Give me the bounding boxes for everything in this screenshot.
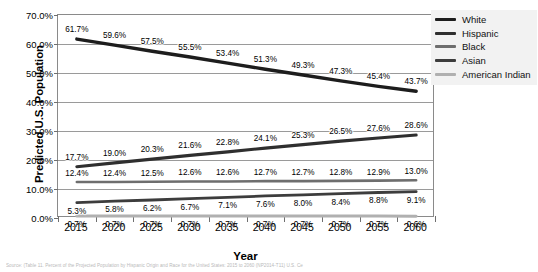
legend-item-hispanic[interactable]: Hispanic [435, 27, 535, 41]
series-line-hispanic [77, 135, 416, 167]
data-label: 25.3% [291, 132, 314, 140]
data-label: 12.4% [65, 170, 88, 178]
legend-swatch-black [435, 45, 456, 48]
data-label: 6.2% [143, 205, 162, 213]
data-label: 19.0% [103, 150, 126, 158]
data-label: 9.1% [407, 197, 426, 205]
y-axis-tick-label: 40.0% [26, 97, 53, 108]
data-label: 12.7% [291, 169, 314, 177]
x-axis-tick-label: 2030 [177, 221, 200, 233]
y-axis-tick-label: 30.0% [26, 126, 53, 137]
data-label: 8.0% [294, 200, 313, 208]
data-label: 13.0% [405, 168, 428, 176]
y-axis-tick-label: 70.0% [26, 10, 53, 21]
data-label: 5.3% [68, 208, 87, 216]
data-label: 8.8% [369, 197, 388, 205]
series-line-black [77, 180, 416, 182]
data-label: 49.3% [291, 62, 314, 70]
data-label: 8.4% [331, 199, 350, 207]
data-label: 12.6% [178, 169, 201, 177]
series-line-white [77, 39, 416, 91]
legend-swatch-american-indian [435, 73, 456, 76]
y-axis-tick-label: 10.0% [26, 184, 53, 195]
data-label: 6.7% [181, 203, 200, 211]
y-axis-tick-label: 0.0% [31, 213, 53, 224]
legend-item-white[interactable]: White [435, 13, 535, 27]
x-axis-title: Year [57, 250, 434, 262]
x-axis-tick-label: 2020 [102, 221, 125, 233]
data-label: 26.5% [329, 128, 352, 136]
data-label: 51.3% [254, 56, 277, 64]
data-label: 21.6% [178, 142, 201, 150]
legend-label-american-indian: American Indian [462, 69, 531, 80]
data-label: 5.8% [105, 206, 124, 214]
data-label: 28.6% [405, 122, 428, 130]
x-axis-tick-label: 2035 [215, 221, 238, 233]
x-axis-tick-mark [435, 216, 436, 222]
data-label: 12.9% [367, 168, 390, 176]
legend-swatch-asian [435, 59, 456, 62]
legend-item-black[interactable]: Black [435, 40, 535, 54]
data-label: 43.7% [405, 78, 428, 86]
data-label: 47.3% [329, 68, 352, 76]
legend-swatch-white [435, 18, 456, 21]
legend-swatch-hispanic [435, 32, 456, 35]
x-axis-tick-label: 2060 [403, 221, 426, 233]
data-label: 7.1% [218, 202, 237, 210]
data-label: 53.4% [216, 50, 239, 58]
x-axis-tick-label: 2045 [290, 221, 313, 233]
plot-area: 0.0%10.0%20.0%30.0%40.0%50.0%60.0%70.0% … [57, 14, 434, 217]
data-label: 55.5% [178, 44, 201, 52]
x-axis-tick-label: 2015 [64, 221, 87, 233]
y-axis-tick-label: 60.0% [26, 39, 53, 50]
data-label: 45.4% [367, 73, 390, 81]
legend-item-asian[interactable]: Asian [435, 54, 535, 68]
data-label: 12.7% [254, 169, 277, 177]
data-label: 12.8% [329, 169, 352, 177]
legend-label-asian: Asian [462, 55, 486, 66]
y-axis-tick-label: 50.0% [26, 68, 53, 79]
x-axis-tick-label: 2050 [328, 221, 351, 233]
x-axis-tick-label: 2025 [140, 221, 163, 233]
data-label: 59.6% [103, 32, 126, 40]
y-axis-tick-label: 20.0% [26, 155, 53, 166]
data-label: 7.6% [256, 201, 275, 209]
legend-item-american-indian[interactable]: American Indian [435, 67, 535, 81]
data-label: 17.7% [65, 154, 88, 162]
series-line-asian [77, 192, 416, 203]
data-label: 61.7% [65, 26, 88, 34]
x-axis-tick-label: 2040 [253, 221, 276, 233]
data-label: 12.6% [216, 169, 239, 177]
population-projection-chart: Predicted U.S. Population 0.0%10.0%20.0%… [0, 0, 538, 272]
data-label: 12.5% [141, 170, 164, 178]
data-label: 12.4% [103, 170, 126, 178]
data-label: 27.6% [367, 125, 390, 133]
legend-label-white: White [462, 14, 486, 25]
data-label: 24.1% [254, 135, 277, 143]
legend-label-hispanic: Hispanic [462, 28, 498, 39]
x-axis-tick-label: 2055 [366, 221, 389, 233]
legend: White Hispanic Black Asian American Indi… [431, 10, 537, 85]
data-label: 22.8% [216, 139, 239, 147]
source-note: Source: (Table 11. Percent of the Projec… [6, 263, 536, 268]
series-lines [58, 15, 435, 218]
data-label: 57.5% [141, 38, 164, 46]
data-label: 20.3% [141, 146, 164, 154]
legend-label-black: Black [462, 41, 485, 52]
